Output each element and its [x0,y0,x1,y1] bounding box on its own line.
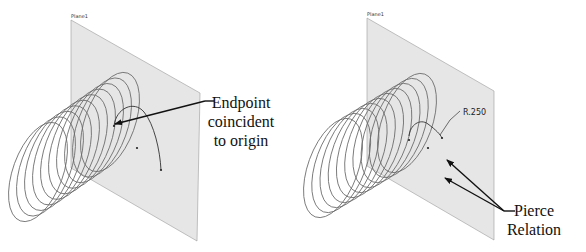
callout-line: Endpoint [212,94,271,112]
callout-text: Endpointcoincidentto origin [208,94,275,150]
end-point [441,137,443,139]
plane-label: Plane1 [367,11,384,17]
center-point [136,147,138,149]
callout-text: PierceRelation [507,202,561,238]
end-point [160,169,162,171]
callout-line: Pierce [514,202,554,219]
helix-coil [292,111,375,226]
dimension-label: R.250 [463,108,486,117]
panel-right: Plane1 R.250 PierceRelation [292,11,561,240]
plane-surface [71,20,200,241]
plane-surface [367,18,494,240]
callout-line: Relation [507,221,561,238]
origin-point [113,125,115,127]
origin-point [408,139,410,141]
callout-line: to origin [214,132,269,150]
callout-line: coincident [208,113,275,130]
center-point [427,147,429,149]
panel-left: Plane1 Endpointcoincidentto origin [0,13,275,241]
diagram-canvas: Plane1 Endpointcoincidentto origin Plane… [0,0,586,252]
plane-label: Plane1 [71,13,88,19]
